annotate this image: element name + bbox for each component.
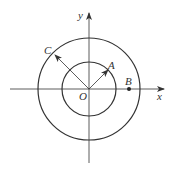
x-axis-label: x <box>156 90 162 102</box>
y-axis-label: y <box>77 9 83 21</box>
point-B-dot <box>127 87 131 91</box>
point-B-label: B <box>125 75 132 87</box>
radius-vector-OC <box>55 55 89 89</box>
diagram-canvas: y x O A B C <box>0 0 176 173</box>
radius-vector-OA <box>89 70 108 89</box>
point-A-label: A <box>107 59 115 71</box>
origin-label: O <box>79 90 87 102</box>
point-C-label: C <box>44 44 52 56</box>
